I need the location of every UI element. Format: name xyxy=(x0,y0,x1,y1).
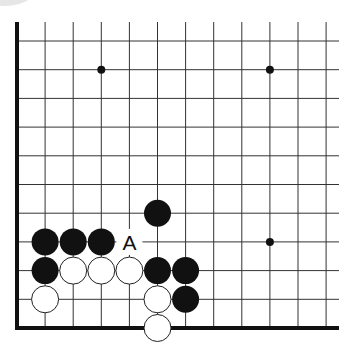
white-stone[interactable] xyxy=(32,286,59,313)
star-point-icon xyxy=(97,66,105,74)
white-stone[interactable] xyxy=(144,286,171,313)
white-stone[interactable] xyxy=(88,257,115,284)
go-board: A xyxy=(0,0,353,352)
star-point-icon xyxy=(266,238,274,246)
black-stone[interactable] xyxy=(88,228,115,255)
black-stone[interactable] xyxy=(144,200,171,227)
white-stone[interactable] xyxy=(144,315,171,342)
black-stone[interactable] xyxy=(172,257,199,284)
black-stone[interactable] xyxy=(144,257,171,284)
white-stone[interactable] xyxy=(116,257,143,284)
point-label: A xyxy=(119,231,139,252)
black-stone[interactable] xyxy=(32,257,59,284)
black-stone[interactable] xyxy=(32,228,59,255)
board-grid xyxy=(0,0,353,352)
white-stone[interactable] xyxy=(60,257,87,284)
black-stone[interactable] xyxy=(172,286,199,313)
black-stone[interactable] xyxy=(60,228,87,255)
star-point-icon xyxy=(266,66,274,74)
